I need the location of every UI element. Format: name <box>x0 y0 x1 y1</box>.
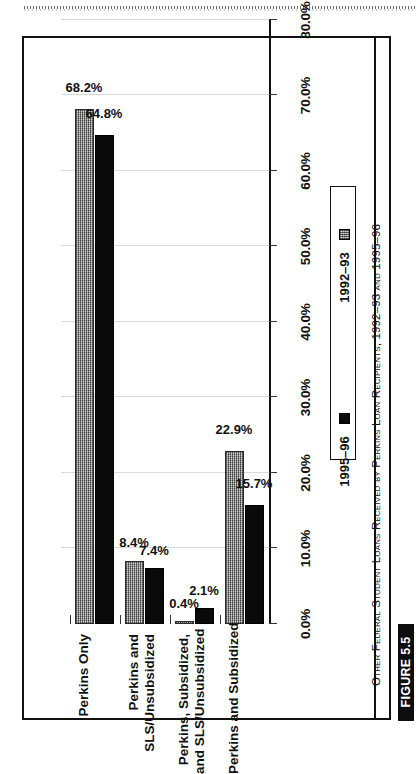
axis-tick-label: 80.0% <box>298 1 313 38</box>
bar-value-label: 15.7% <box>236 477 273 492</box>
figure-number-badge: FIGURE 5.5 <box>398 624 414 721</box>
figure-caption: Other Federal Student Loans Received by … <box>356 40 378 716</box>
legend-label: 1992–93 <box>337 252 352 303</box>
bar-group: 22.9%15.7% <box>219 451 269 624</box>
axis-tick-label: 50.0% <box>298 228 313 265</box>
bar-1992-93: 2.1% <box>195 608 214 624</box>
category-label: Perkins and Subsidized <box>226 634 242 774</box>
category-tick <box>220 615 221 624</box>
bar-group-container: 68.2%64.8%8.4%7.4%0.4%2.1%22.9%15.7% <box>69 20 269 624</box>
value-axis-line <box>269 20 271 624</box>
axis-tick-label: 20.0% <box>298 454 313 491</box>
bar-1992-93: 64.8% <box>95 135 114 624</box>
plot-area: 0.0%10.0%20.0%30.0%40.0%50.0%60.0%70.0%8… <box>61 0 319 624</box>
category-label: Perkins, Subsidized, and SLS/Unsubsidize… <box>176 634 208 774</box>
category-label: Perkins and SLS/Unsubsidized <box>126 634 158 774</box>
category-tick <box>120 615 121 624</box>
bar-1995-96: 68.2% <box>75 109 94 624</box>
axis-tick <box>269 321 277 322</box>
legend-item: 1995–96 <box>332 413 356 469</box>
axis-tick-label: 0.0% <box>298 609 313 639</box>
category-label: Perkins Only <box>76 634 92 774</box>
bar-value-label: 68.2% <box>66 80 103 95</box>
bar-group: 68.2%64.8% <box>69 109 119 624</box>
bar-1992-93: 7.4% <box>145 568 164 624</box>
bar-1995-96: 0.4% <box>175 621 194 624</box>
axis-tick-label: 30.0% <box>298 379 313 416</box>
gray-textured-square-icon <box>339 229 350 240</box>
bar-value-label: 2.1% <box>189 583 219 598</box>
axis-tick <box>269 19 277 20</box>
axis-tick <box>269 623 277 624</box>
bar-1995-96: 8.4% <box>125 561 144 624</box>
axis-tick-label: 40.0% <box>298 303 313 340</box>
axis-tick <box>269 397 277 398</box>
axis-tick-label: 60.0% <box>298 152 313 189</box>
category-tick <box>70 615 71 624</box>
axis-tick-label: 70.0% <box>298 77 313 114</box>
bar-group: 8.4%7.4% <box>119 561 169 624</box>
legend-label: 1995–96 <box>337 436 352 487</box>
bar-chart: 0.0%10.0%20.0%30.0%40.0%50.0%60.0%70.0%8… <box>61 0 319 624</box>
bar-1992-93: 15.7% <box>245 505 264 624</box>
black-square-icon <box>339 413 350 424</box>
category-tick <box>170 615 171 624</box>
bar-value-label: 22.9% <box>216 422 253 437</box>
axis-tick <box>269 548 277 549</box>
bar-group: 0.4%2.1% <box>169 608 219 624</box>
axis-tick <box>269 95 277 96</box>
chart-legend: 1995–961992–93 <box>330 186 356 460</box>
bar-value-label: 64.8% <box>86 106 123 121</box>
legend-item: 1992–93 <box>332 229 356 285</box>
axis-tick <box>269 472 277 473</box>
bar-value-label: 7.4% <box>139 543 169 558</box>
axis-tick <box>269 246 277 247</box>
axis-tick <box>269 170 277 171</box>
figure-caption-text: Other Federal Student Loans Received by … <box>370 46 382 686</box>
figure-number-label: FIGURE 5.5 <box>399 624 413 721</box>
axis-tick-label: 10.0% <box>298 530 313 567</box>
